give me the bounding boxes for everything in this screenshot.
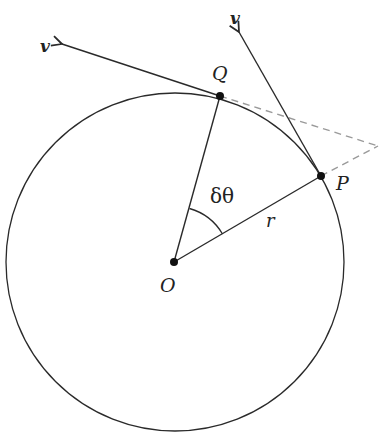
point-q-dot xyxy=(216,92,224,100)
dashed-tangent-p xyxy=(321,146,378,176)
angle-arc xyxy=(190,209,223,235)
velocity-vector-p xyxy=(239,32,321,176)
label-o: O xyxy=(160,274,176,296)
label-velocity-p: v xyxy=(230,8,241,28)
point-o-dot xyxy=(170,258,178,266)
label-q: Q xyxy=(212,62,228,84)
label-velocity-q: v xyxy=(40,36,51,56)
radius-oq xyxy=(174,96,220,262)
point-p-dot xyxy=(317,172,325,180)
label-angle: δθ xyxy=(210,184,234,208)
circular-motion-diagram: O Q P r δθ v v xyxy=(0,0,382,437)
radius-op xyxy=(174,176,321,262)
label-p: P xyxy=(335,172,350,194)
label-r: r xyxy=(266,210,276,231)
velocity-vector-q xyxy=(62,44,220,96)
